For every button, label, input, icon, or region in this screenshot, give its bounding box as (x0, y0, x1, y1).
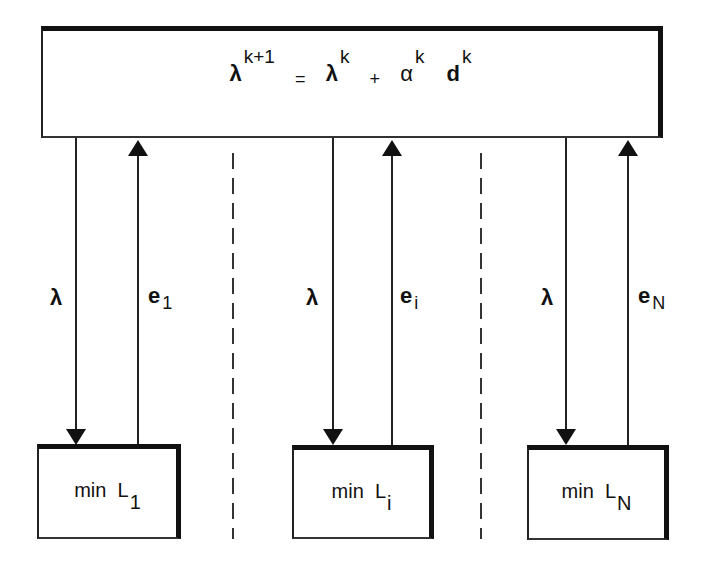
error-up-line (137, 156, 139, 445)
step-size: αk (400, 61, 424, 87)
update-equation: λk+1 = λk + αk dk (43, 61, 658, 87)
error-label: ei (400, 283, 418, 309)
lambda-current: λk (326, 61, 350, 87)
subproblem-box-n: min LN (527, 445, 669, 540)
lambda-down-line (332, 138, 334, 430)
error-up-line (627, 156, 629, 445)
lambda-next: λk+1 (230, 61, 275, 87)
error-label: eN (638, 283, 665, 309)
lambda-label: λ (306, 285, 318, 311)
error-label: e1 (148, 283, 172, 309)
arrow-up-icon (382, 140, 402, 156)
arrow-down-icon (556, 429, 576, 445)
coordinator-box: λk+1 = λk + αk dk (41, 26, 663, 138)
lambda-label: λ (50, 285, 62, 311)
arrow-down-icon (323, 429, 343, 445)
plus-sign: + (370, 69, 381, 90)
error-up-line (391, 156, 393, 445)
direction: dk (447, 61, 472, 87)
separator-dashed-line (480, 153, 482, 539)
subproblem-box-1: min L1 (37, 444, 181, 539)
equals-sign: = (295, 69, 306, 90)
arrow-down-icon (66, 429, 86, 445)
subproblem-label: min Li (294, 480, 429, 503)
lambda-label: λ (541, 285, 553, 311)
subproblem-label: min L1 (39, 479, 176, 502)
arrow-up-icon (618, 140, 638, 156)
arrow-up-icon (128, 140, 148, 156)
subproblem-box-i: min Li (292, 445, 434, 539)
subproblem-label: min LN (529, 480, 664, 503)
lambda-down-line (75, 138, 77, 430)
separator-dashed-line (232, 153, 234, 539)
lambda-down-line (565, 138, 567, 430)
